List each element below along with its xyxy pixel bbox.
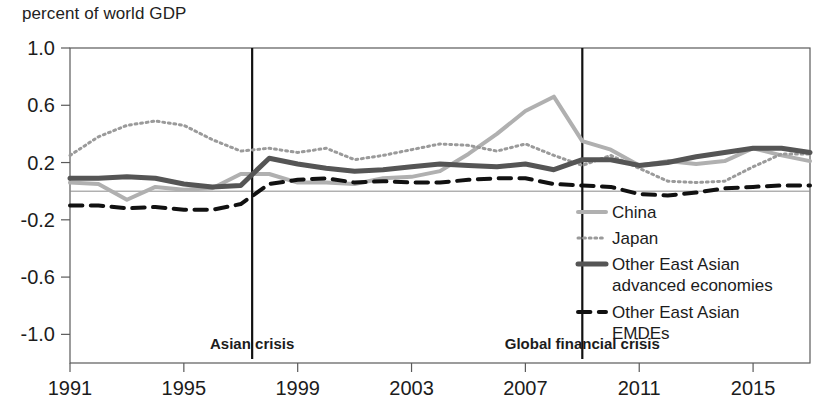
y-tick-label: 0.6 xyxy=(27,94,55,116)
y-tick-label: 1.0 xyxy=(27,37,55,59)
legend-label-china: China xyxy=(612,203,657,222)
legend-label-other_emdes: Other East Asian xyxy=(612,303,740,322)
x-tick-label: 2003 xyxy=(389,377,434,399)
series-line-japan xyxy=(70,121,810,183)
line-chart: 1.00.60.2-0.2-0.6-1.01991199519992003200… xyxy=(0,0,823,415)
event-label-asian_crisis: Asian crisis xyxy=(210,335,294,352)
legend-label-other_advanced: Other East Asian xyxy=(612,255,740,274)
x-tick-label: 1991 xyxy=(48,377,93,399)
x-tick-label: 1995 xyxy=(162,377,207,399)
y-tick-label: 0.2 xyxy=(27,152,55,174)
x-tick-label: 2007 xyxy=(503,377,548,399)
y-tick-label: -0.2 xyxy=(21,209,55,231)
legend-label-other_emdes-cont: EMDEs xyxy=(612,324,670,343)
y-tick-label: -1.0 xyxy=(21,323,55,345)
x-tick-label: 2015 xyxy=(731,377,776,399)
legend-label-japan: Japan xyxy=(612,229,658,248)
chart-figure: percent of world GDP 1.00.60.2-0.2-0.6-1… xyxy=(0,0,823,415)
x-tick-label: 1999 xyxy=(275,377,320,399)
y-tick-label: -0.6 xyxy=(21,266,55,288)
x-tick-label: 2011 xyxy=(618,377,661,399)
legend-label-other_advanced-cont: advanced economies xyxy=(612,276,773,295)
